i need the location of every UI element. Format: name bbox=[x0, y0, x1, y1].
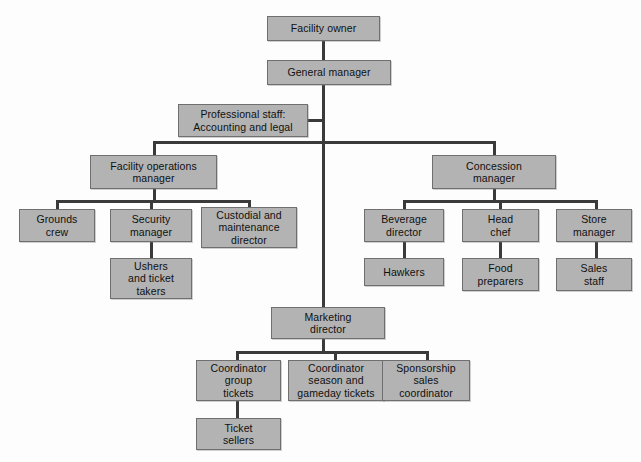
connector-security-manager-to-ushers-ticket-takers bbox=[150, 242, 153, 259]
org-node-security-manager[interactable]: Security manager bbox=[110, 209, 192, 242]
connector-manager-row-to-concession-manager bbox=[493, 141, 496, 156]
org-node-label: Ticket sellers bbox=[223, 422, 254, 446]
org-node-label: General manager bbox=[287, 66, 370, 78]
org-node-label: Facility owner bbox=[291, 22, 357, 34]
org-node-label: Store manager bbox=[573, 213, 615, 237]
org-node-label: Sponsorship sales coordinator bbox=[396, 362, 455, 399]
connector-coordinator-group-to-ticket-sellers bbox=[236, 401, 239, 419]
org-node-sales-staff[interactable]: Sales staff bbox=[556, 258, 632, 291]
org-node-facility-owner[interactable]: Facility owner bbox=[267, 16, 380, 41]
org-node-label: Ushers and ticket takers bbox=[128, 260, 174, 297]
org-node-label: Concession manager bbox=[466, 160, 522, 184]
org-node-general-manager[interactable]: General manager bbox=[267, 60, 391, 85]
org-node-ushers-ticket-takers[interactable]: Ushers and ticket takers bbox=[110, 258, 192, 299]
org-node-label: Custodial and maintenance director bbox=[216, 209, 282, 246]
org-node-custodial-maintenance[interactable]: Custodial and maintenance director bbox=[201, 207, 297, 248]
org-node-label: Hawkers bbox=[383, 266, 425, 278]
org-node-label: Grounds crew bbox=[37, 213, 78, 237]
org-node-coordinator-season[interactable]: Coordinator season and gameday tickets bbox=[288, 360, 384, 401]
org-node-beverage-director[interactable]: Beverage director bbox=[364, 209, 444, 242]
connector-ops-bar-to-ops-children bbox=[56, 200, 250, 203]
org-node-food-preparers[interactable]: Food preparers bbox=[462, 258, 539, 291]
connector-store-manager-to-sales-staff bbox=[595, 242, 598, 259]
connector-beverage-director-to-hawkers bbox=[403, 242, 406, 259]
connector-manager-row-to-facility-ops-manager bbox=[153, 141, 156, 156]
connector-professional-staff-to-spine bbox=[308, 119, 324, 122]
org-node-label: Security manager bbox=[130, 213, 172, 237]
connector-facility-owner-to-general-manager bbox=[322, 41, 325, 60]
org-node-label: Food preparers bbox=[478, 262, 524, 286]
org-node-label: Facility operations manager bbox=[110, 160, 197, 184]
org-chart-canvas: Facility ownerGeneral managerProfessiona… bbox=[0, 0, 641, 462]
org-node-store-manager[interactable]: Store manager bbox=[556, 209, 632, 242]
org-node-label: Head chef bbox=[488, 213, 514, 237]
org-node-label: Coordinator group tickets bbox=[211, 362, 267, 399]
org-node-professional-staff[interactable]: Professional staff: Accounting and legal bbox=[178, 104, 308, 137]
org-node-label: Marketing director bbox=[304, 311, 351, 335]
connector-spine-to-manager-row bbox=[153, 141, 494, 144]
org-node-label: Beverage director bbox=[381, 213, 427, 237]
org-node-grounds-crew[interactable]: Grounds crew bbox=[19, 209, 95, 242]
org-node-ticket-sellers[interactable]: Ticket sellers bbox=[196, 418, 281, 450]
org-node-label: Coordinator season and gameday tickets bbox=[297, 362, 374, 399]
org-node-label: Professional staff: Accounting and legal bbox=[193, 108, 293, 132]
org-node-label: Sales staff bbox=[581, 262, 608, 286]
org-node-marketing-director[interactable]: Marketing director bbox=[271, 307, 385, 339]
org-node-concession-manager[interactable]: Concession manager bbox=[432, 155, 556, 189]
org-node-hawkers[interactable]: Hawkers bbox=[364, 258, 444, 286]
connector-head-chef-to-food-preparers bbox=[499, 242, 502, 259]
org-node-sponsorship-sales[interactable]: Sponsorship sales coordinator bbox=[382, 360, 470, 401]
org-node-facility-ops-manager[interactable]: Facility operations manager bbox=[90, 155, 217, 189]
org-node-head-chef[interactable]: Head chef bbox=[462, 209, 539, 242]
org-node-coordinator-group[interactable]: Coordinator group tickets bbox=[196, 360, 281, 401]
connector-mkt-bar-to-mkt-children bbox=[236, 351, 428, 354]
